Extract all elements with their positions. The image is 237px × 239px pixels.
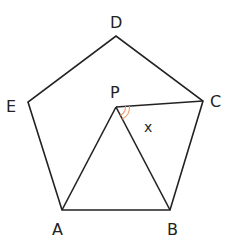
label-b: B (167, 220, 178, 239)
segment-pa (62, 107, 116, 210)
pentagon-diagram: D E P C x A B (0, 0, 237, 239)
pentagon-abcde (28, 36, 203, 210)
label-p: P (110, 83, 120, 102)
label-angle-x: x (144, 119, 152, 135)
segment-pb (116, 107, 170, 210)
label-e: E (6, 97, 16, 116)
label-a: A (52, 220, 63, 239)
label-c: C (210, 92, 221, 111)
segment-pc (116, 101, 203, 107)
label-d: D (110, 13, 122, 32)
